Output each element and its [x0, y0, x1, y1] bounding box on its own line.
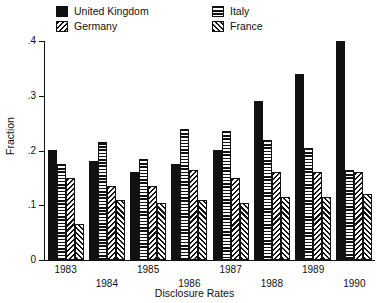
bar-united-kingdom-1983: [48, 150, 57, 260]
bar-france-1985: [157, 203, 166, 260]
legend-label-france: France: [230, 21, 263, 32]
y-axis-label: Fraction: [4, 71, 16, 201]
bar-italy-1983: [57, 164, 66, 260]
legend-swatch-france: [212, 21, 224, 32]
bar-groups: [45, 41, 375, 260]
legend-item-united-kingdom: United Kingdom: [56, 6, 149, 17]
bar-united-kingdom-1986: [171, 164, 180, 260]
legend-swatch-italy: [212, 6, 224, 17]
bar-italy-1987: [222, 131, 231, 260]
legend-label-united-kingdom: United Kingdom: [74, 6, 149, 17]
bar-germany-1990: [354, 172, 363, 260]
bar-italy-1984: [98, 142, 107, 260]
bar-group-1987: [210, 41, 251, 260]
x-tick-label: 1989: [302, 264, 324, 275]
legend-item-france: France: [212, 21, 263, 32]
y-tick-label: .1: [18, 200, 36, 210]
bar-germany-1987: [231, 178, 240, 260]
bar-france-1988: [281, 197, 290, 260]
bar-group-1983: [45, 41, 86, 260]
y-tick-label: .2: [18, 146, 36, 156]
bar-italy-1990: [345, 170, 354, 260]
bar-united-kingdom-1990: [336, 41, 345, 260]
bar-france-1986: [198, 200, 207, 260]
bar-germany-1988: [272, 172, 281, 260]
bar-germany-1984: [107, 186, 116, 260]
x-tick-label: 1983: [55, 264, 77, 275]
bar-group-1984: [86, 41, 127, 260]
x-tick-label: 1985: [137, 264, 159, 275]
bar-group-1989: [293, 41, 334, 260]
bar-italy-1986: [180, 129, 189, 260]
x-tick-label: 1987: [220, 264, 242, 275]
x-axis-line: [44, 260, 375, 261]
bar-germany-1989: [313, 172, 322, 260]
bar-italy-1988: [263, 140, 272, 260]
y-tick-mark: [39, 260, 44, 261]
legend-swatch-united-kingdom: [56, 6, 68, 17]
bar-france-1990: [363, 194, 372, 260]
bar-germany-1983: [66, 178, 75, 260]
legend-label-italy: Italy: [230, 6, 249, 17]
legend-swatch-germany: [56, 21, 68, 32]
y-tick-mark: [39, 151, 44, 152]
bar-france-1983: [75, 224, 84, 260]
x-axis-label: Disclosure Rates: [0, 287, 389, 299]
bar-france-1987: [240, 203, 249, 260]
bar-group-1986: [169, 41, 210, 260]
bar-united-kingdom-1988: [254, 101, 263, 260]
bar-group-1988: [251, 41, 292, 260]
bar-france-1989: [322, 197, 331, 260]
bar-united-kingdom-1987: [213, 150, 222, 260]
legend-item-germany: Germany: [56, 21, 117, 32]
legend-item-italy: Italy: [212, 6, 249, 17]
y-tick-mark: [39, 41, 44, 42]
legend-label-germany: Germany: [74, 21, 117, 32]
bar-france-1984: [116, 200, 125, 260]
y-tick-mark: [39, 96, 44, 97]
y-tick-label: 0: [18, 255, 36, 265]
bar-chart: United Kingdom Germany Italy France 0.1.…: [0, 0, 389, 303]
bar-group-1990: [334, 41, 375, 260]
bar-united-kingdom-1989: [295, 74, 304, 260]
bar-italy-1989: [304, 148, 313, 260]
bar-group-1985: [128, 41, 169, 260]
bar-italy-1985: [139, 159, 148, 260]
chart-legend: United Kingdom Germany Italy France: [56, 6, 356, 36]
bar-germany-1985: [148, 186, 157, 260]
y-tick-label: .3: [18, 91, 36, 101]
y-tick-mark: [39, 205, 44, 206]
bar-germany-1986: [189, 170, 198, 260]
bar-united-kingdom-1985: [130, 172, 139, 260]
y-tick-label: .4: [18, 36, 36, 46]
bar-united-kingdom-1984: [89, 161, 98, 260]
